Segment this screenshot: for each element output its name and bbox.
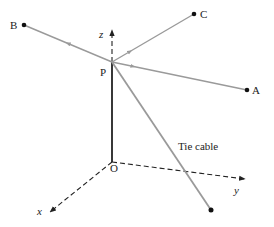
point-b-dot — [22, 23, 27, 28]
label-c: C — [200, 8, 207, 20]
label-tie-cable: Tie cable — [178, 140, 218, 152]
label-y-axis: y — [233, 184, 239, 196]
tie-anchor-dot — [209, 208, 214, 213]
cable-pa — [112, 62, 247, 90]
points — [22, 12, 250, 213]
y-axis — [112, 162, 245, 179]
axes — [50, 30, 245, 212]
label-b: B — [10, 19, 17, 31]
label-a: A — [252, 84, 260, 96]
x-axis — [50, 162, 112, 212]
point-a-dot — [245, 88, 250, 93]
cable-pc — [112, 14, 194, 62]
label-p: P — [100, 66, 106, 78]
label-o: O — [110, 162, 118, 174]
cable-pole-diagram: B C A P O z y x Tie cable — [0, 0, 274, 227]
tie-cable — [112, 62, 211, 210]
cables — [24, 14, 247, 210]
labels: B C A P O z y x Tie cable — [10, 8, 260, 217]
label-x-axis: x — [36, 205, 42, 217]
label-z-axis: z — [98, 28, 104, 40]
point-c-dot — [192, 12, 197, 17]
